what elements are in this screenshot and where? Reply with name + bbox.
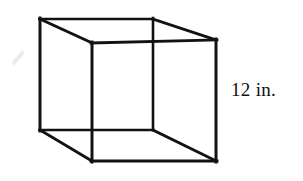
edge-front-top bbox=[91, 40, 217, 43]
edge-connector-bottom-left bbox=[40, 130, 92, 161]
figure-canvas: 12 in. bbox=[0, 0, 303, 181]
edge-connector-top-left bbox=[40, 19, 92, 43]
edge-connector-top-right bbox=[153, 19, 216, 40]
cube-back-face-edges bbox=[40, 18, 154, 131]
edge-length-label: 12 in. bbox=[231, 78, 276, 102]
edge-connector-bottom-right bbox=[153, 130, 216, 161]
